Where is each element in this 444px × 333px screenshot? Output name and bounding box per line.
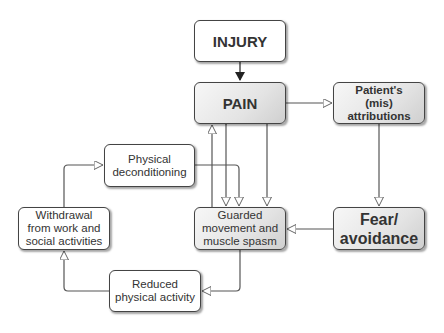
node-guarded-line1: Guarded	[218, 209, 263, 222]
edge-reduced-withdrawal	[64, 251, 109, 291]
node-pain-label: PAIN	[223, 95, 258, 112]
node-attributions-line2: (mis) attributions	[334, 97, 424, 123]
node-deconditioning: Physical deconditioning	[104, 144, 195, 187]
edge-guarded-reduced	[202, 250, 240, 291]
node-fear-line2: avoidance	[340, 229, 418, 248]
node-injury-label: INJURY	[213, 33, 267, 50]
node-fear: Fear/ avoidance	[333, 207, 425, 250]
node-reduced-line1: Reduced	[132, 278, 178, 291]
node-injury: INJURY	[194, 20, 286, 62]
edge-deconditioning-guarded	[195, 165, 239, 206]
node-attributions-line1: Patient's	[355, 84, 402, 97]
node-withdrawal-line1: Withdrawal	[36, 209, 93, 222]
node-withdrawal: Withdrawal from work and social activiti…	[18, 207, 110, 250]
node-reduced: Reduced physical activity	[109, 270, 201, 312]
node-withdrawal-line3: social activities	[26, 235, 103, 248]
node-deconditioning-line2: deconditioning	[112, 166, 186, 179]
node-attributions: Patient's (mis) attributions	[333, 82, 425, 124]
node-withdrawal-line2: from work and	[28, 222, 101, 235]
node-guarded-line2: movement and	[202, 222, 278, 235]
node-reduced-line2: physical activity	[115, 291, 195, 304]
node-pain: PAIN	[194, 82, 286, 124]
node-guarded-line3: muscle spasm	[203, 235, 277, 248]
node-guarded: Guarded movement and muscle spasm	[194, 207, 286, 250]
node-fear-line1: Fear/	[360, 210, 398, 229]
node-deconditioning-line1: Physical	[128, 153, 171, 166]
edge-withdrawal-deconditioning	[64, 165, 103, 207]
